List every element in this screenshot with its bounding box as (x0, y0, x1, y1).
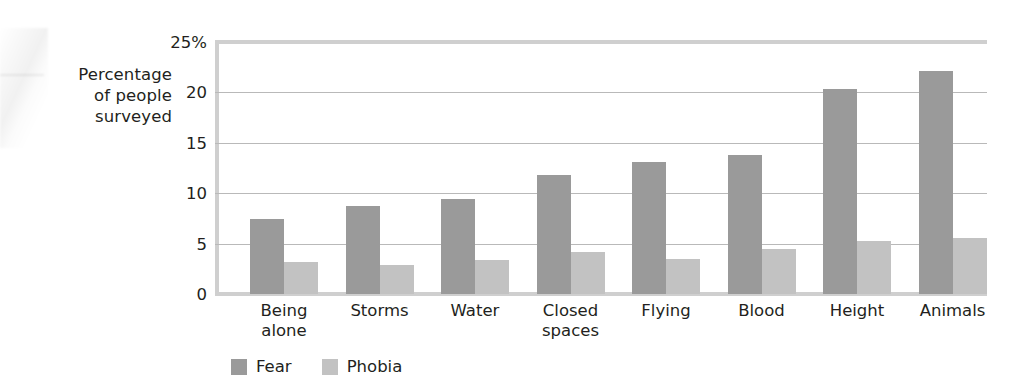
x-label-line: Height (805, 301, 909, 321)
legend-label-phobia: Phobia (347, 357, 403, 376)
bar-fear-height (823, 89, 857, 294)
bar-phobia-animals (953, 238, 987, 294)
y-tick-label-5: 5 (147, 235, 207, 254)
bar-phobia-flying (666, 259, 700, 294)
x-label-line: Being (232, 301, 336, 321)
x-label-line: alone (232, 321, 336, 341)
y-tick-label-0: 0 (147, 285, 207, 304)
bar-fear-flying (632, 162, 666, 294)
bar-fear-water (441, 199, 475, 294)
x-label-water: Water (423, 301, 527, 321)
bar-fear-being-alone (250, 219, 284, 294)
bar-phobia-being-alone (284, 262, 318, 294)
x-label-line: Water (423, 301, 527, 321)
x-label-line: Flying (614, 301, 718, 321)
y-tick-label-20: 20 (147, 83, 207, 102)
x-label-line: spaces (519, 321, 623, 341)
x-axis-category-labels: BeingaloneStormsWaterClosedspacesFlyingB… (215, 301, 987, 349)
x-label-closed-spaces: Closedspaces (519, 301, 623, 341)
y-tick-label-10: 10 (147, 184, 207, 203)
bar-phobia-closed-spaces (571, 252, 605, 294)
bar-phobia-height (857, 241, 891, 294)
y-tick-label-25: 25% (147, 33, 207, 52)
x-label-being-alone: Beingalone (232, 301, 336, 341)
x-label-line: Blood (710, 301, 814, 321)
legend-label-fear: Fear (256, 357, 292, 376)
bars-layer (215, 40, 987, 296)
x-label-line: Closed (519, 301, 623, 321)
y-axis-tick-labels: 0510152025% (145, 40, 207, 296)
bar-chart-figure: Percentage of people surveyed 0510152025… (0, 0, 1024, 387)
bar-phobia-storms (380, 265, 414, 294)
bar-fear-blood (728, 155, 762, 294)
x-label-height: Height (805, 301, 909, 321)
bar-fear-animals (919, 71, 953, 294)
plot-area (215, 40, 987, 296)
legend-swatch-phobia-icon (322, 359, 338, 375)
x-label-blood: Blood (710, 301, 814, 321)
bar-fear-closed-spaces (537, 175, 571, 294)
chart-legend: FearPhobia (231, 357, 402, 376)
legend-swatch-fear-icon (231, 359, 247, 375)
bar-fear-storms (346, 206, 380, 294)
y-tick-label-15: 15 (147, 134, 207, 153)
bar-phobia-water (475, 260, 509, 294)
bar-phobia-blood (762, 249, 796, 294)
x-label-animals: Animals (901, 301, 1005, 321)
legend-item-phobia: Phobia (322, 357, 403, 376)
x-label-flying: Flying (614, 301, 718, 321)
x-label-storms: Storms (328, 301, 432, 321)
legend-item-fear: Fear (231, 357, 292, 376)
x-label-line: Animals (901, 301, 1005, 321)
x-label-line: Storms (328, 301, 432, 321)
